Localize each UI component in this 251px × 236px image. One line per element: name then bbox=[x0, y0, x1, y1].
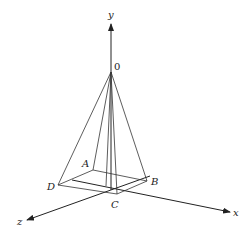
apex-label: 0 bbox=[114, 61, 120, 72]
y-axis-label: y bbox=[107, 9, 114, 20]
vertex-label-D: D bbox=[46, 181, 55, 192]
edge-apex-C bbox=[111, 72, 117, 194]
z-axis-label: z bbox=[16, 216, 23, 227]
pyramid-diagram: y x z 0 A B C D bbox=[0, 0, 251, 236]
edge-apex-A bbox=[93, 72, 111, 170]
vertex-label-A: A bbox=[81, 158, 89, 169]
inner-vertical bbox=[106, 72, 111, 186]
base-edge-AB bbox=[93, 170, 147, 181]
vertex-label-B: B bbox=[150, 176, 158, 187]
base-edge-CD bbox=[58, 185, 117, 194]
vertex-label-C: C bbox=[111, 199, 119, 210]
x-axis-label: x bbox=[233, 207, 239, 218]
edge-apex-B bbox=[111, 72, 147, 181]
z-axis bbox=[27, 176, 150, 220]
